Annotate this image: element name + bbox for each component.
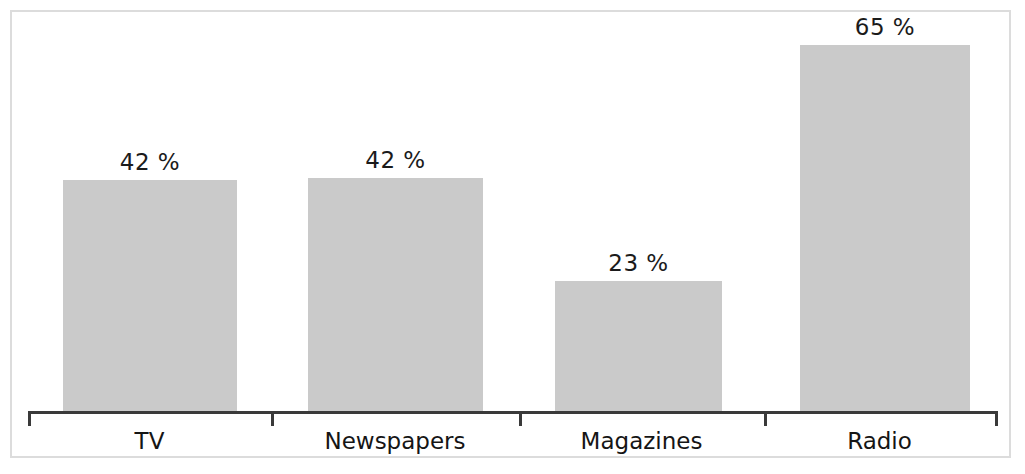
category-label-magazines: Magazines	[519, 428, 764, 454]
plot-area: 42 % 42 % 23 % 65 % TV Newspapers Magazi…	[0, 0, 1025, 474]
x-axis-tick-end	[995, 411, 998, 426]
category-label-radio: Radio	[764, 428, 995, 454]
x-axis-tick-start	[28, 411, 31, 426]
bar-value-label-radio: 65 %	[800, 14, 970, 40]
x-axis-tick-tv-newspapers	[271, 411, 274, 426]
x-axis-line	[28, 411, 998, 414]
bar-value-label-tv: 42 %	[63, 149, 237, 175]
bar-value-label-newspapers: 42 %	[308, 147, 483, 173]
bar-tv	[63, 180, 237, 412]
bar-radio	[800, 45, 970, 412]
x-axis-tick-newspapers-magazines	[519, 411, 522, 426]
bar-newspapers	[308, 178, 483, 412]
x-axis-tick-magazines-radio	[764, 411, 767, 426]
bar-magazines	[555, 281, 722, 412]
bar-chart-figure: 42 % 42 % 23 % 65 % TV Newspapers Magazi…	[0, 0, 1025, 474]
category-label-newspapers: Newspapers	[271, 428, 519, 454]
category-label-tv: TV	[28, 428, 271, 454]
bar-value-label-magazines: 23 %	[555, 250, 722, 276]
